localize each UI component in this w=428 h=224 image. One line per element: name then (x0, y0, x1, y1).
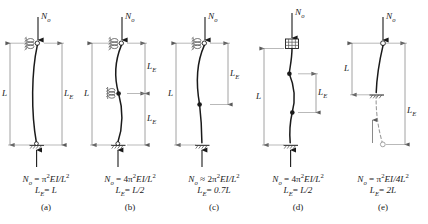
case-d-formula: No = 4π2EI/L2 (252, 172, 344, 186)
case-b-inflection-point (116, 91, 121, 96)
case-e-length-label: L (344, 63, 349, 73)
case-c-load-label: No (208, 11, 217, 23)
case-a-base-support-icon (30, 142, 45, 149)
case-a-load-label: No (41, 11, 50, 23)
case-a-length-label: L (2, 88, 7, 98)
case-e-effective-label: LE (407, 105, 416, 117)
case-c-base-support-icon (195, 145, 210, 148)
case-c-formula: No ≈ 2π2EI/L2 (166, 172, 262, 186)
case-d-buckled-column (289, 49, 294, 143)
case-a-buckled-column (33, 45, 38, 142)
case-b-effective-label-lower: LE (147, 113, 156, 125)
case-b-top-roller-icon (109, 37, 118, 50)
case-c-length-label: L (168, 88, 173, 98)
case-c-caption: (c) (166, 202, 262, 212)
case-d-inflection-point-upper (287, 72, 292, 77)
case-c-effective-formula: LE= 0.7L (166, 185, 262, 197)
case-b-length-label: L (84, 88, 89, 98)
case-b-load-label: No (125, 11, 134, 23)
case-b-caption: (b) (84, 202, 176, 212)
case-e-buckled-column (376, 46, 383, 93)
case-b-mid-roller-icon (106, 87, 115, 99)
case-a-effective-formula: LE= L (0, 185, 92, 197)
case-a-formula: No = π2EI/L2 (0, 172, 92, 186)
case-b-base-support-icon (111, 142, 126, 149)
case-c-top-roller-icon (192, 37, 201, 50)
case-e-group (350, 17, 407, 147)
case-d-load-label: No (295, 7, 304, 19)
case-d-base-support-icon (284, 145, 299, 148)
case-a-group (8, 17, 64, 167)
case-d-length-label: L (256, 91, 261, 101)
case-d-top-fixed-guide-icon (286, 39, 299, 49)
case-d-inflection-point-lower (290, 110, 295, 115)
case-a-top-roller-icon (25, 37, 34, 50)
case-b-formula: No = 4π2EI/L2 (84, 172, 176, 186)
case-d-group (262, 13, 318, 167)
case-d-effective-label: LE (318, 87, 327, 99)
case-c-buckled-column (197, 45, 204, 142)
case-c-effective-label: LE (230, 68, 239, 80)
case-e-mirror-dashed-curve (376, 95, 382, 143)
case-b-effective-label-upper: LE (147, 61, 156, 73)
case-c-inflection-point (197, 102, 202, 107)
case-c-group (174, 17, 230, 167)
case-e-base-support-icon (370, 95, 385, 98)
case-e-formula: No = π2EI/4L2 (338, 172, 428, 186)
case-e-mirror-pin (380, 142, 385, 147)
case-d-caption: (d) (252, 202, 344, 212)
case-e-caption: (e) (338, 202, 428, 212)
case-e-load-label: No (386, 11, 395, 23)
case-a-effective-label: LE (64, 88, 73, 100)
case-a-caption: (a) (0, 202, 92, 212)
case-e-effective-formula: LE= 2L (338, 185, 428, 197)
case-b-group (90, 17, 147, 167)
case-d-effective-formula: LE= L/2 (252, 185, 344, 197)
case-b-effective-formula: LE= L/2 (84, 185, 176, 197)
